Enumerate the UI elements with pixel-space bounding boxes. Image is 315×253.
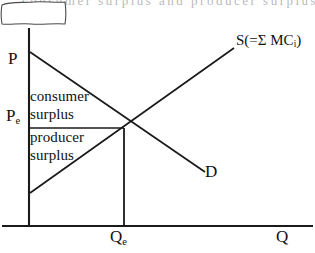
supply-demand-diagram: consumer surplus and producer surplus P …	[0, 0, 315, 253]
consumer-surplus-line-1: consumer	[30, 88, 89, 104]
demand-curve-label: D	[205, 163, 217, 180]
supply-label-callout-box	[0, 0, 68, 26]
producer-surplus-line-2: surplus	[30, 148, 84, 163]
supply-curve-label: S(=Σ MCi)	[236, 33, 301, 50]
producer-surplus-label: producer surplus	[30, 130, 84, 163]
supply-curve-label-close: )	[296, 32, 301, 48]
equilibrium-quantity-letter: Q	[110, 227, 122, 246]
consumer-surplus-label: consumer surplus	[30, 89, 89, 122]
supply-curve-label-main: S(=Σ MC	[236, 32, 294, 48]
x-axis-label: Q	[276, 228, 288, 245]
equilibrium-price-label: Pe	[6, 107, 20, 126]
equilibrium-price-subscript: e	[15, 115, 20, 126]
equilibrium-quantity-subscript: e	[122, 236, 127, 247]
consumer-surplus-line-2: surplus	[30, 107, 89, 122]
y-axis-label: P	[8, 50, 17, 67]
equilibrium-quantity-label: Qe	[110, 228, 127, 247]
producer-surplus-line-1: producer	[30, 129, 84, 145]
